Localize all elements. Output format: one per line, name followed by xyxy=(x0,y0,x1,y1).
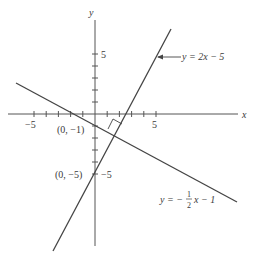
arrow-head-icon xyxy=(157,55,163,60)
coordinate-plane: y x −5 5 5 −5 (0, −1) (0, −5) y = 2x − 5… xyxy=(0,0,253,254)
y-tick-label-5: 5 xyxy=(101,49,106,60)
svg-text:x − 1: x − 1 xyxy=(193,194,215,205)
x-axis-label: x xyxy=(241,109,247,120)
point-label-0-neg5: (0, −5) xyxy=(55,169,82,181)
line1-equation-label: y = 2x − 5 xyxy=(181,51,224,62)
y-tick-label-neg5: −5 xyxy=(101,169,112,180)
x-tick-label-neg5: −5 xyxy=(25,119,36,130)
line-y-2x-minus-5 xyxy=(53,29,171,251)
svg-text:1: 1 xyxy=(187,190,191,199)
x-tick-label-5: 5 xyxy=(152,119,157,130)
line2-equation-label: y = − 1 2 x − 1 xyxy=(159,190,215,210)
svg-text:2: 2 xyxy=(187,201,191,210)
line-y-neg-half-x-minus-1 xyxy=(16,83,237,202)
y-axis-label: y xyxy=(88,7,94,18)
point-label-0-neg1: (0, −1) xyxy=(57,124,84,136)
svg-text:y = −: y = − xyxy=(159,194,183,205)
